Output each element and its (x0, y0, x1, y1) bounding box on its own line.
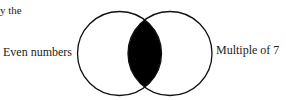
right-set-label: Multiple of 7 (216, 44, 279, 56)
left-set-label: Even numbers (3, 46, 72, 58)
